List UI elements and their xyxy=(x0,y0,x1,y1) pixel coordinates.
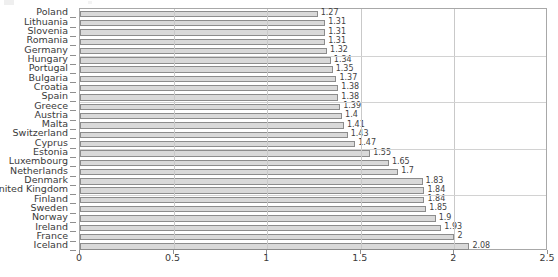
bar xyxy=(80,187,424,193)
cropped-artifact xyxy=(4,0,14,5)
y-axis-tick xyxy=(70,17,76,18)
bar-chart: PolandLithuaniaSloveniaRomaniaGermanyHun… xyxy=(0,0,558,277)
bar-row: 1.84 xyxy=(80,195,546,204)
y-axis-tick xyxy=(70,64,76,65)
y-axis-tick xyxy=(70,82,76,83)
bar-row: 1.27 xyxy=(80,9,546,18)
bar-value-label: 1.7 xyxy=(401,166,414,176)
bar-row: 1.93 xyxy=(80,223,546,232)
gridline-vertical xyxy=(361,9,362,249)
y-axis-tick xyxy=(70,73,76,74)
y-axis-tick xyxy=(70,231,76,232)
bar-row: 1.37 xyxy=(80,74,546,83)
y-axis-tick xyxy=(70,129,76,130)
x-axis-tick xyxy=(266,250,267,254)
bar-row: 1.7 xyxy=(80,167,546,176)
y-axis-tick xyxy=(70,148,76,149)
y-axis-tick xyxy=(70,92,76,93)
y-axis-tick xyxy=(70,110,76,111)
bar-row: 1.9 xyxy=(80,214,546,223)
x-axis-tick xyxy=(547,250,548,254)
gridline-vertical xyxy=(267,9,268,249)
gridline-horizontal xyxy=(80,195,546,196)
bar-rows: 1.271.311.311.311.321.341.351.371.381.38… xyxy=(80,9,546,249)
y-axis-tick xyxy=(70,176,76,177)
y-axis-tick xyxy=(70,27,76,28)
y-axis-tick xyxy=(70,138,76,139)
bar-row: 1.31 xyxy=(80,37,546,46)
bar-row: 1.55 xyxy=(80,149,546,158)
y-axis-tick xyxy=(70,241,76,242)
bar-row: 1.41 xyxy=(80,121,546,130)
gridline-horizontal xyxy=(80,102,546,103)
bar xyxy=(80,150,370,156)
y-axis-tick xyxy=(70,250,76,251)
y-axis-tick xyxy=(70,222,76,223)
bar-row: 1.47 xyxy=(80,139,546,148)
x-axis-tick xyxy=(79,250,80,254)
gridline-horizontal xyxy=(80,56,546,57)
y-axis-tick xyxy=(70,213,76,214)
y-axis-tick xyxy=(70,157,76,158)
bar xyxy=(80,160,389,166)
plot-area: 1.271.311.311.311.321.341.351.371.381.38… xyxy=(79,8,547,250)
bar xyxy=(80,225,441,231)
bar-row: 1.43 xyxy=(80,130,546,139)
bar xyxy=(80,66,333,72)
x-axis-tick xyxy=(453,250,454,254)
x-axis-tick xyxy=(360,250,361,254)
bar xyxy=(80,104,340,110)
x-axis-tick-labels: 00.511.522.5 xyxy=(0,252,558,272)
y-axis-tick xyxy=(70,203,76,204)
gridline-vertical xyxy=(454,9,455,249)
y-axis-category-labels: PolandLithuaniaSloveniaRomaniaGermanyHun… xyxy=(0,8,76,250)
bar-row: 2.08 xyxy=(80,242,546,251)
bar xyxy=(80,85,338,91)
y-axis-tick xyxy=(70,101,76,102)
bar xyxy=(80,29,325,35)
bar-row: 1.39 xyxy=(80,102,546,111)
y-axis-tick xyxy=(70,36,76,37)
bar xyxy=(80,178,423,184)
bar xyxy=(80,11,318,17)
cropped-artifact-secondary xyxy=(88,1,92,4)
bar-row: 1.38 xyxy=(80,93,546,102)
bar xyxy=(80,169,398,175)
bar xyxy=(80,57,331,63)
y-axis-tick xyxy=(70,120,76,121)
bar xyxy=(80,39,325,45)
gridline-vertical xyxy=(174,9,175,249)
y-axis-tick xyxy=(70,55,76,56)
bar xyxy=(80,48,327,54)
bar xyxy=(80,141,355,147)
bar xyxy=(80,132,348,138)
bar xyxy=(80,243,469,249)
x-axis-tick xyxy=(173,250,174,254)
y-axis-tick xyxy=(70,194,76,195)
bar xyxy=(80,206,426,212)
bar-value-label: 2 xyxy=(457,231,462,241)
bar-row: 1.4 xyxy=(80,111,546,120)
bar-value-label: 2.08 xyxy=(472,241,490,251)
bar xyxy=(80,113,342,119)
bar-row: 1.31 xyxy=(80,18,546,27)
y-axis-tick xyxy=(70,185,76,186)
bar xyxy=(80,215,436,221)
bar xyxy=(80,20,325,26)
bar-row: 1.32 xyxy=(80,46,546,55)
bar-row: 1.83 xyxy=(80,177,546,186)
bar-row: 1.35 xyxy=(80,65,546,74)
bar-row: 1.85 xyxy=(80,204,546,213)
bar xyxy=(80,197,424,203)
y-axis-label-iceland: Iceland xyxy=(34,240,68,250)
bar xyxy=(80,76,336,82)
bar-row: 1.84 xyxy=(80,186,546,195)
bar xyxy=(80,94,338,100)
bar-row: 1.31 xyxy=(80,28,546,37)
bar-row: 1.65 xyxy=(80,158,546,167)
y-axis-tick xyxy=(70,45,76,46)
bar-row: 1.38 xyxy=(80,83,546,92)
gridline-horizontal xyxy=(80,149,546,150)
y-axis-tick xyxy=(70,166,76,167)
bar xyxy=(80,122,344,128)
